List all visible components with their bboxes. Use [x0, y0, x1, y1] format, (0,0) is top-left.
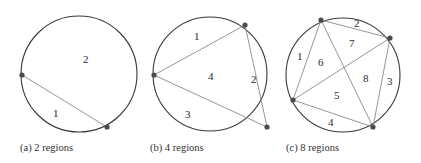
region-label: 7 — [349, 37, 355, 49]
caption-a: (a) 2 regions — [20, 142, 73, 153]
point — [151, 72, 156, 77]
figure-c: 1 2 3 4 5 6 7 8 — [286, 17, 400, 132]
region-label: 3 — [185, 108, 191, 120]
chord — [154, 25, 245, 75]
chord — [22, 75, 107, 127]
region-label: 4 — [208, 70, 214, 82]
region-label: 2 — [83, 53, 89, 65]
region-label: 3 — [387, 75, 393, 87]
point — [264, 124, 269, 129]
circle-a — [21, 16, 137, 132]
point — [290, 97, 295, 102]
region-label: 5 — [334, 89, 340, 101]
point — [104, 124, 109, 129]
point — [387, 35, 392, 40]
chord — [293, 38, 390, 100]
region-label: 2 — [354, 17, 360, 29]
region-label: 1 — [297, 50, 303, 62]
region-label: 6 — [318, 56, 324, 68]
region-label: 1 — [194, 30, 200, 42]
region-label: 1 — [53, 107, 59, 119]
point — [242, 22, 247, 27]
caption-b: (b) 4 regions — [150, 142, 204, 153]
region-label: 8 — [363, 72, 369, 84]
region-label: 2 — [251, 73, 257, 85]
point — [318, 17, 323, 22]
figure-a: 1 2 — [19, 16, 137, 132]
regions-diagram: 1 2 1 2 3 4 1 2 3 4 5 6 7 8 — [0, 0, 421, 163]
caption-c: (c) 8 regions — [286, 142, 339, 153]
point — [19, 72, 24, 77]
region-label: 4 — [328, 116, 334, 128]
figure-b: 1 2 3 4 — [151, 17, 269, 131]
point — [370, 124, 375, 129]
